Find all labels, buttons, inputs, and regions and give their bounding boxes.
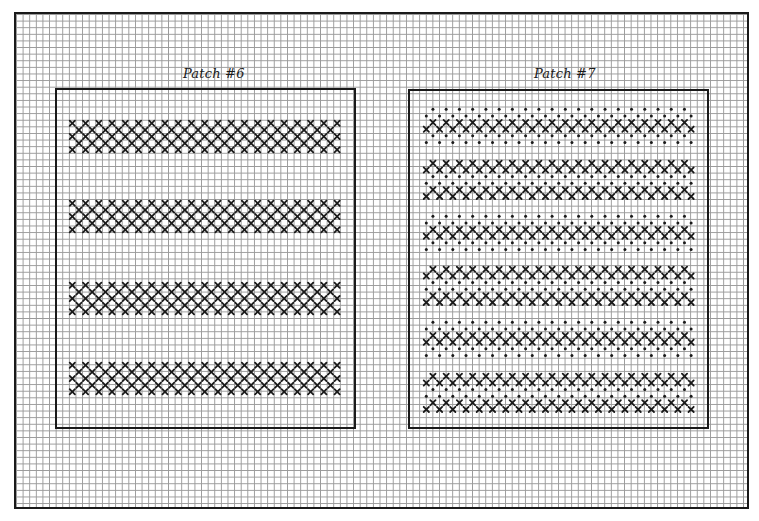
patch-6-title: Patch #6 xyxy=(183,66,245,81)
patch-7-title: Patch #7 xyxy=(534,66,596,81)
patch-6-frame xyxy=(55,88,356,429)
patch-7-frame xyxy=(408,89,709,429)
